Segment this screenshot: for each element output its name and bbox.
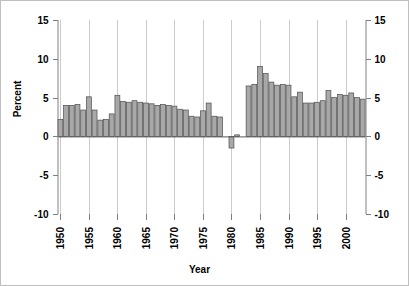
bar	[292, 97, 297, 137]
bar	[195, 117, 200, 136]
bar	[258, 67, 263, 137]
bar	[212, 116, 217, 136]
x-tick-label: 1965	[141, 227, 152, 250]
bar	[172, 106, 177, 136]
y-tick-label: -10	[375, 209, 390, 220]
x-tick-label: 1955	[84, 227, 95, 250]
bar	[297, 92, 302, 136]
x-tick-label: 1980	[226, 227, 237, 250]
bar	[218, 117, 223, 136]
x-tick-label: 1960	[112, 227, 123, 250]
bar	[155, 105, 160, 136]
bars-group	[58, 67, 365, 148]
x-axis: 1950195519601965197019751980198519901995…	[55, 214, 352, 249]
y-tick-label: 5	[43, 93, 49, 104]
bar	[286, 85, 291, 136]
x-tick-label: 1995	[312, 227, 323, 250]
bar	[166, 105, 171, 136]
y-axis-right: -10-5051015	[366, 15, 389, 220]
bar	[206, 103, 211, 136]
bar	[332, 98, 337, 137]
bar	[161, 105, 166, 137]
bar	[109, 114, 114, 136]
bar	[149, 104, 154, 137]
chart-canvas: -10-5051015-10-5051015195019551960196519…	[0, 0, 409, 286]
bar	[126, 102, 131, 136]
y-tick-label: -5	[40, 170, 49, 181]
bar	[315, 102, 320, 136]
y-tick-label: 15	[37, 15, 49, 26]
x-tick-label: 1990	[284, 227, 295, 250]
y-tick-label: 0	[375, 131, 381, 142]
bar	[252, 84, 257, 136]
x-tick-label: 1950	[55, 227, 66, 250]
y-tick-label: -5	[375, 170, 384, 181]
x-tick-label: 2000	[341, 227, 352, 250]
bar	[178, 109, 183, 136]
x-tick-label: 1985	[255, 227, 266, 250]
y-tick-label: -10	[34, 209, 49, 220]
bar	[86, 97, 91, 137]
bar	[183, 110, 188, 136]
bar	[115, 95, 120, 136]
bar	[92, 110, 97, 136]
bar	[143, 103, 148, 136]
bar	[246, 86, 251, 136]
bar	[354, 98, 359, 137]
bar	[75, 105, 80, 137]
bar	[98, 120, 103, 136]
bar	[200, 111, 205, 137]
bar	[263, 74, 268, 137]
bar	[349, 93, 354, 136]
y-tick-label: 15	[375, 15, 387, 26]
bar	[58, 119, 63, 136]
x-axis-title: Year	[189, 264, 210, 275]
bar	[320, 101, 325, 137]
bar	[189, 116, 194, 136]
bar	[309, 103, 314, 136]
bar	[275, 85, 280, 136]
bar	[337, 95, 342, 137]
y-tick-label: 10	[37, 54, 49, 65]
bar	[280, 84, 285, 136]
bar	[269, 82, 274, 136]
y-axis-title: Percent	[12, 80, 23, 117]
y-tick-label: 0	[43, 131, 49, 142]
bar	[121, 101, 126, 136]
bar	[64, 105, 69, 136]
bar	[360, 99, 365, 136]
bar	[81, 110, 86, 136]
bar	[229, 136, 234, 148]
bar	[235, 135, 240, 137]
bar	[69, 105, 74, 136]
bar-chart: -10-5051015-10-5051015195019551960196519…	[0, 0, 409, 286]
y-tick-label: 10	[375, 54, 387, 65]
bar	[303, 103, 308, 136]
bar	[326, 91, 331, 137]
y-axis-left: -10-5051015	[34, 15, 58, 220]
bar	[138, 102, 143, 136]
bar	[343, 95, 348, 136]
bar	[104, 119, 109, 136]
x-tick-label: 1970	[169, 227, 180, 250]
bar	[132, 101, 137, 137]
x-tick-label: 1975	[198, 227, 209, 250]
y-tick-label: 5	[375, 93, 381, 104]
